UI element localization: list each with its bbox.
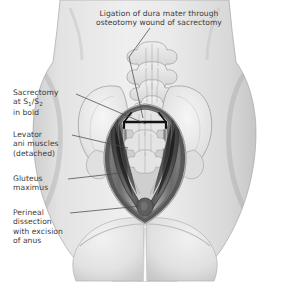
label-sacrectomy-line1: Sacrectomy [13, 88, 58, 97]
label-perineal-dissection: Perineal dissection with excision of anu… [13, 208, 75, 246]
medical-illustration-figure: Ligation of dura mater through osteotomy… [0, 0, 289, 282]
label-gluteus-maximus: Gluteus maximus [13, 174, 73, 193]
label-sacrectomy-sub2: 2 [39, 101, 43, 107]
label-sacrectomy-line3: in bold [13, 108, 39, 117]
label-levator-ani-muscles: Levator ani muscles (detached) [13, 130, 77, 158]
label-sacrectomy: Sacrectomyat S1/S2in bold [13, 88, 75, 117]
label-sacrectomy-sub1: 1 [28, 101, 32, 107]
label-ligation-of-dura-mater: Ligation of dura mater through osteotomy… [84, 9, 234, 28]
label-sacrectomy-line2-prefix: at S [13, 97, 28, 106]
